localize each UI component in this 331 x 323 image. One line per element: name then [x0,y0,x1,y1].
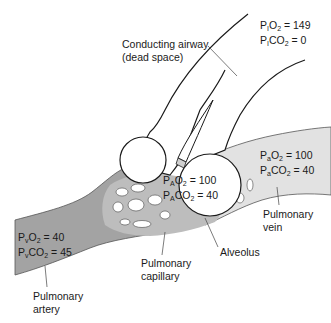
pulmonary-capillary-label-line2: capillary [141,270,191,283]
pulmonary-vein-label-line1: Pulmonary [263,208,313,221]
pulmonary-vein-label-line2: vein [263,221,313,234]
pulmonary-artery-label: Pulmonary artery [33,290,83,315]
alveolus-label: Alveolus [220,246,260,259]
left-alveolus [120,137,166,183]
alveolar-po2: PAO2 = 100 [163,173,218,188]
inspired-po2: PIO2 = 149 [260,18,311,33]
venous-values: PvO2 = 40 PvCO2 = 45 [18,230,72,260]
gas-exchange-diagram: Conducting airway (dead space) PIO2 = 14… [0,0,331,323]
arterial-po2: PaO2 = 100 [260,148,314,163]
inspired-values: PIO2 = 149 PICO2 = 0 [260,18,311,48]
pulmonary-capillary-label-line1: Pulmonary [141,257,191,270]
leader-capillary [162,232,165,255]
leader-artery [45,266,47,287]
conducting-airway-label-line1: Conducting airway [122,38,208,51]
conducting-airway-label: Conducting airway (dead space) [122,38,208,63]
inspired-pco2: PICO2 = 0 [260,33,311,48]
arterial-pco2: PaCO2 = 40 [260,163,314,178]
pulmonary-capillary-label: Pulmonary capillary [141,257,191,282]
venous-po2: PvO2 = 40 [18,230,72,245]
alveolar-values: PAO2 = 100 PACO2 = 40 [163,173,218,203]
venous-pco2: PvCO2 = 45 [18,245,72,260]
pulmonary-vein-label: Pulmonary vein [263,208,313,233]
alveolar-pco2: PACO2 = 40 [163,188,218,203]
pulmonary-artery-label-line1: Pulmonary [33,290,83,303]
conducting-airway-label-line2: (dead space) [122,51,208,64]
arterial-values: PaO2 = 100 PaCO2 = 40 [260,148,314,178]
pulmonary-artery-label-line2: artery [33,303,83,316]
